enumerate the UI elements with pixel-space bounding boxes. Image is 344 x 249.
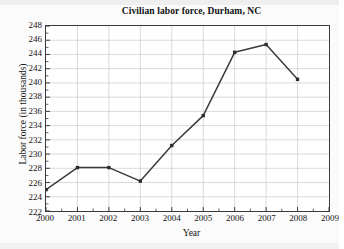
y-tick-label: 236 xyxy=(16,107,42,116)
y-tick-label: 244 xyxy=(16,49,42,58)
x-tick-label: 2000 xyxy=(28,214,62,223)
x-tick-label: 2003 xyxy=(123,214,157,223)
data-point-marker xyxy=(76,166,79,169)
data-point-marker xyxy=(139,179,142,182)
x-tick-label: 2007 xyxy=(250,214,284,223)
x-tick-label: 2004 xyxy=(155,214,189,223)
scan-band-top xyxy=(0,0,339,5)
x-tick-label: 2008 xyxy=(281,214,315,223)
chart-title: Civilian labor force, Durham, NC xyxy=(44,6,339,16)
y-tick-label: 226 xyxy=(16,179,42,188)
y-tick-label: 238 xyxy=(16,92,42,101)
y-tick-label: 224 xyxy=(16,193,42,202)
y-tick-label: 232 xyxy=(16,136,42,145)
x-tick-label: 2005 xyxy=(186,214,220,223)
x-axis-tick-labels: 2000200120022003200420052006200720082009 xyxy=(45,214,330,228)
y-tick-label: 248 xyxy=(16,21,42,30)
y-tick-label: 246 xyxy=(16,35,42,44)
y-tick-label: 242 xyxy=(16,64,42,73)
x-tick-label: 2001 xyxy=(60,214,94,223)
y-axis-tick-labels: 2222242262282302322342362382402422442462… xyxy=(14,25,42,212)
y-tick-label: 234 xyxy=(16,121,42,130)
data-point-marker xyxy=(46,188,48,191)
plot-area xyxy=(45,25,330,212)
y-tick-label: 230 xyxy=(16,150,42,159)
data-point-marker xyxy=(233,51,236,54)
data-point-marker xyxy=(107,166,110,169)
x-tick-label: 2002 xyxy=(91,214,125,223)
y-tick-label: 240 xyxy=(16,78,42,87)
data-point-marker xyxy=(296,78,299,81)
data-point-marker xyxy=(264,43,267,46)
x-tick-label: 2006 xyxy=(218,214,252,223)
data-point-marker xyxy=(202,114,205,117)
x-axis-label: Year xyxy=(44,228,339,238)
data-point-marker xyxy=(170,144,173,147)
x-tick-label: 2009 xyxy=(313,214,344,223)
scan-band-bottom xyxy=(0,243,339,249)
y-tick-label: 228 xyxy=(16,164,42,173)
data-series-line xyxy=(46,26,329,211)
